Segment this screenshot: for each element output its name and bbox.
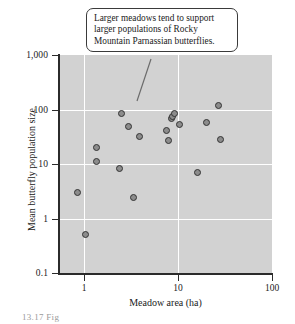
y-axis-tick-label: 10 (38, 159, 48, 169)
x-axis-tick-label: 1 (82, 283, 87, 293)
data-point (203, 119, 210, 126)
y-axis-tick-label: 0.1 (36, 268, 48, 278)
x-axis-tick-label: 10 (173, 283, 183, 293)
y-axis-tick-label: 1 (43, 214, 48, 224)
data-point (93, 158, 100, 165)
x-axis-tick-label: 100 (265, 283, 279, 293)
data-point (217, 136, 224, 143)
gridline-horizontal (59, 110, 272, 111)
gridline-vertical (272, 55, 273, 273)
data-point (118, 110, 125, 117)
y-axis-tick (52, 110, 59, 111)
data-point (171, 110, 178, 117)
y-axis-tick (52, 273, 59, 274)
callout-text: Larger meadows tend to support larger po… (94, 13, 231, 47)
y-axis-tick (52, 55, 59, 56)
callout-box: Larger meadows tend to support larger po… (86, 8, 238, 52)
x-axis-tick (178, 275, 179, 281)
data-point (194, 169, 201, 176)
data-point (93, 144, 100, 151)
data-point (136, 133, 143, 140)
plot-area (59, 55, 272, 273)
y-axis-tick (52, 219, 59, 220)
x-axis-title: Meadow area (ha) (59, 297, 272, 308)
y-axis-tick (52, 164, 59, 165)
y-axis-title: Mean butterfly population size (26, 75, 37, 265)
data-point (165, 137, 172, 144)
gridline-horizontal (59, 164, 272, 165)
y-axis-tick-label: 1,000 (26, 50, 48, 60)
data-point (74, 189, 81, 196)
scatter-plot-figure: 0.11101001,000110100 Larger meadows tend… (0, 0, 295, 324)
x-axis-tick (272, 275, 273, 281)
x-axis-line (58, 273, 273, 275)
data-point (215, 102, 222, 109)
figure-caption-scrap: 13.17 Fig (22, 312, 59, 322)
gridline-horizontal (59, 219, 272, 220)
x-axis-tick (84, 275, 85, 281)
